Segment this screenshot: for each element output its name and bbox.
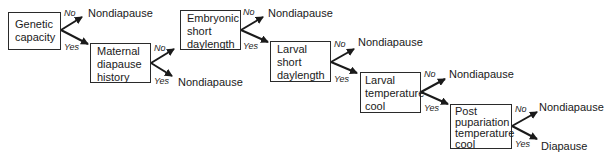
node-maternal-diapause-history: Maternal diapause history — [90, 43, 151, 83]
node-text: short — [277, 56, 324, 69]
arrow-larval-temp-no — [421, 79, 445, 92]
arrow-postpup-no — [512, 112, 537, 126]
branch-no-label: No — [515, 104, 527, 114]
branch-yes-label: Yes — [64, 42, 79, 52]
outcome-nondiapause: Nondiapause — [449, 68, 514, 80]
node-text: Larval — [277, 43, 324, 56]
node-text: Genetic — [15, 18, 54, 31]
node-text: cool — [455, 139, 505, 150]
branch-yes-label: Yes — [515, 139, 530, 149]
node-larval-short-daylength: Larval short daylength — [270, 41, 331, 82]
node-text: Maternal — [97, 45, 144, 58]
node-text: temperature — [365, 87, 414, 100]
branch-no-label: No — [334, 39, 346, 49]
node-text: cool — [365, 100, 414, 113]
branch-yes-label: Yes — [243, 41, 258, 51]
branch-no-label: No — [154, 43, 166, 53]
outcome-nondiapause: Nondiapause — [358, 36, 423, 48]
outcome-nondiapause: Nondiapause — [178, 76, 243, 88]
node-larval-temperature-cool: Larval temperature cool — [360, 72, 421, 113]
outcome-nondiapause: Nondiapause — [88, 7, 153, 19]
branch-yes-label: Yes — [334, 74, 349, 84]
node-text: daylength — [187, 38, 234, 51]
branch-no-label: No — [64, 8, 76, 18]
node-genetic-capacity: Genetic capacity — [8, 12, 61, 50]
branch-yes-label: Yes — [154, 76, 169, 86]
branch-no-label: No — [424, 69, 436, 79]
node-text: daylength — [277, 69, 324, 82]
node-text: diapause — [97, 58, 144, 71]
node-text: history — [97, 71, 144, 84]
outcome-nondiapause: Nondiapause — [268, 7, 333, 19]
outcome-diapause: Diapause — [541, 140, 587, 152]
branch-no-label: No — [243, 7, 255, 17]
node-text: short — [187, 25, 234, 38]
branch-yes-label: Yes — [424, 103, 439, 113]
node-embryonic-short-daylength: Embryonic short daylength — [180, 10, 241, 50]
arrow-genetic-no — [61, 17, 82, 30]
arrow-maternal-yes — [151, 63, 172, 76]
arrow-larval-day-yes — [331, 62, 357, 73]
node-text: Larval — [365, 74, 414, 87]
arrow-postpup-yes — [512, 126, 537, 139]
outcome-nondiapause: Nondiapause — [539, 101, 604, 113]
node-text: Embryonic — [187, 12, 234, 25]
node-text: capacity — [15, 31, 54, 44]
arrow-embryonic-no — [241, 17, 263, 30]
node-post-pupariation-temperature-cool: Post pupariation temperature cool — [450, 104, 512, 149]
arrow-larval-day-no — [331, 49, 354, 62]
